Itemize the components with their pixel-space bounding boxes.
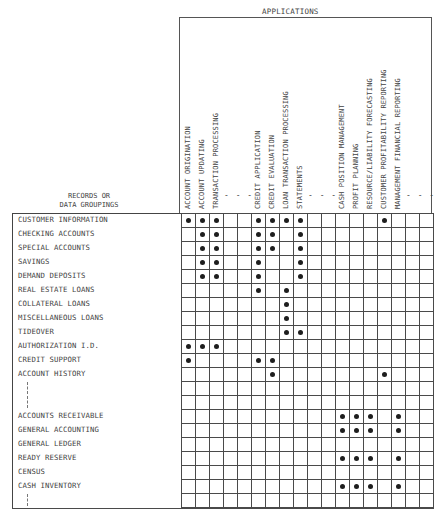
mark-dot — [354, 484, 359, 489]
mark-dot — [200, 232, 205, 237]
grid-horizontal-line — [181, 325, 434, 326]
mark-dot — [214, 232, 219, 237]
grid-horizontal-line — [181, 283, 434, 284]
mark-dot — [256, 246, 261, 251]
column-placeholder-dashes: - - - — [406, 191, 435, 200]
column-label: TRANSACTION PROCESSING — [212, 113, 220, 209]
mark-dot — [298, 330, 303, 335]
row-label: CENSUS — [18, 467, 45, 476]
grid-vertical-line — [419, 213, 420, 507]
row-label: SPECIAL ACCOUNTS — [18, 243, 90, 252]
grid-horizontal-line — [181, 339, 434, 340]
records-title-line1: RECORDS OR — [34, 192, 144, 201]
column-label: RESOURCE/LIABILITY FORECASTING — [366, 78, 374, 209]
row-label: CASH INVENTORY — [18, 481, 81, 490]
grid-vertical-line — [265, 213, 266, 507]
mark-dot — [396, 456, 401, 461]
mark-dot — [368, 484, 373, 489]
mark-dot — [200, 274, 205, 279]
grid-horizontal-line — [181, 367, 434, 368]
grid-horizontal-line — [181, 353, 434, 354]
column-placeholder-dashes: - - - — [224, 191, 253, 200]
mark-dot — [186, 358, 191, 363]
column-placeholder-dashes: - - - — [308, 191, 337, 200]
grid-vertical-line — [293, 213, 294, 507]
mark-dot — [214, 260, 219, 265]
mark-dot — [340, 428, 345, 433]
mark-dot — [256, 274, 261, 279]
column-label: CREDIT APPLICATION — [254, 130, 262, 209]
mark-dot — [256, 358, 261, 363]
grid-vertical-line — [363, 213, 364, 507]
mark-dot — [256, 232, 261, 237]
column-label: CREDIT EVALUATION — [268, 135, 276, 209]
row-label: CREDIT SUPPORT — [18, 355, 81, 364]
row-label: GENERAL LEDGER — [18, 439, 81, 448]
grid-vertical-line — [391, 213, 392, 507]
grid-vertical-line — [349, 213, 350, 507]
mark-dot — [298, 260, 303, 265]
row-label: CUSTOMER INFORMATION — [18, 215, 108, 224]
mark-dot — [340, 484, 345, 489]
grid-horizontal-line — [181, 297, 434, 298]
grid-horizontal-line — [181, 227, 434, 228]
mark-dot — [396, 414, 401, 419]
row-label: CHECKING ACCOUNTS — [18, 229, 94, 238]
applications-title: APPLICATIONS — [262, 7, 319, 16]
mark-dot — [368, 428, 373, 433]
mark-dot — [200, 218, 205, 223]
mark-dot — [382, 218, 387, 223]
grid-horizontal-line — [181, 493, 434, 494]
column-label: LOAN TRANSACTION PROCESSING — [282, 91, 290, 209]
column-label: MANAGEMENT FINANCIAL REPORTING — [394, 78, 402, 209]
mark-dot — [256, 218, 261, 223]
grid-vertical-line — [209, 213, 210, 507]
grid-vertical-line — [321, 213, 322, 507]
mark-dot — [298, 218, 303, 223]
row-label: COLLATERAL LOANS — [18, 299, 90, 308]
grid-horizontal-line — [181, 479, 434, 480]
records-title-line2: DATA GROUPINGS — [34, 201, 144, 210]
mark-dot — [298, 246, 303, 251]
mark-dot — [200, 260, 205, 265]
mark-dot — [354, 414, 359, 419]
row-label: TIDEOVER — [18, 327, 54, 336]
mark-dot — [200, 344, 205, 349]
grid-horizontal-line — [181, 269, 434, 270]
mark-dot — [214, 344, 219, 349]
grid-horizontal-line — [181, 451, 434, 452]
row-label: SAVINGS — [18, 257, 49, 266]
mark-dot — [186, 218, 191, 223]
mark-dot — [298, 274, 303, 279]
mark-dot — [256, 260, 261, 265]
grid-vertical-line — [237, 213, 238, 507]
column-label: CASH POSITION MANAGEMENT — [338, 104, 346, 209]
mark-dot — [284, 288, 289, 293]
mark-dot — [270, 218, 275, 223]
grid-horizontal-line — [181, 311, 434, 312]
mark-dot — [214, 218, 219, 223]
grid-horizontal-line — [181, 409, 434, 410]
grid-vertical-line — [335, 213, 336, 507]
column-label: ACCOUNT UPDATING — [198, 139, 206, 209]
matrix-bottom-border — [12, 508, 434, 509]
grid-vertical-line — [307, 213, 308, 507]
grid-horizontal-line — [181, 241, 434, 242]
grid-horizontal-line — [181, 437, 434, 438]
grid-vertical-line — [433, 213, 434, 507]
records-title: RECORDS OR DATA GROUPINGS — [34, 192, 144, 210]
grid-vertical-line — [195, 213, 196, 507]
row-label: MISCELLANEOUS LOANS — [18, 313, 103, 322]
mark-dot — [396, 428, 401, 433]
mark-dot — [284, 316, 289, 321]
grid-vertical-line — [251, 213, 252, 507]
row-label: ACCOUNTS RECEIVABLE — [18, 411, 103, 420]
mark-dot — [200, 246, 205, 251]
grid-horizontal-line — [181, 423, 434, 424]
grid-vertical-line — [279, 213, 280, 507]
grid-horizontal-line — [181, 255, 434, 256]
mark-dot — [270, 246, 275, 251]
mark-dot — [284, 218, 289, 223]
row-label: REAL ESTATE LOANS — [18, 285, 94, 294]
mark-dot — [270, 232, 275, 237]
